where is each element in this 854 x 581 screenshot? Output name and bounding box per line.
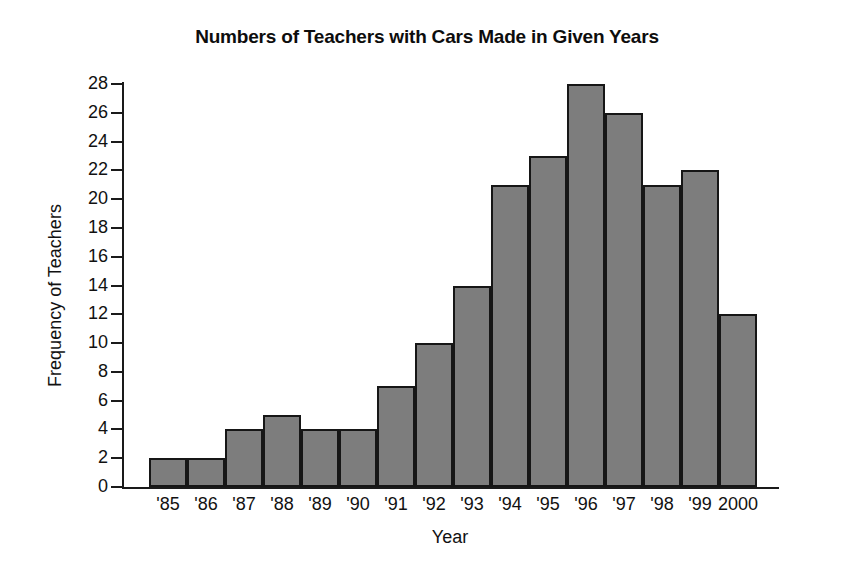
- y-tick-label: 2: [60, 448, 108, 466]
- y-tick-label: 10: [60, 333, 108, 351]
- y-tick-mark: [111, 198, 122, 200]
- y-tick-mark: [111, 112, 122, 114]
- histogram-bar: [491, 185, 529, 487]
- histogram-bar: [377, 386, 415, 487]
- y-tick-mark: [111, 371, 122, 373]
- y-tick-mark: [111, 342, 122, 344]
- plot-area: 0246810121416182022242628 '85'86'87'88'8…: [122, 82, 779, 489]
- histogram-bar: [415, 343, 453, 487]
- histogram-bar: [453, 286, 491, 488]
- y-tick-label: 14: [60, 276, 108, 294]
- x-tick-label: 2000: [713, 494, 763, 514]
- y-tick-label: 0: [60, 477, 108, 495]
- y-tick-label: 12: [60, 304, 108, 322]
- histogram-bar: [339, 429, 377, 487]
- y-tick-mark: [111, 256, 122, 258]
- histogram-bar: [263, 415, 301, 487]
- histogram-bar: [605, 113, 643, 487]
- y-axis-line: [122, 82, 124, 489]
- y-tick-mark: [111, 285, 122, 287]
- y-tick-label: 6: [60, 391, 108, 409]
- y-tick-mark: [111, 400, 122, 402]
- y-tick-mark: [111, 428, 122, 430]
- histogram-figure: Numbers of Teachers with Cars Made in Gi…: [0, 0, 854, 581]
- histogram-bar: [149, 458, 187, 487]
- y-tick-label: 16: [60, 247, 108, 265]
- y-tick-label: 22: [60, 160, 108, 178]
- histogram-bar: [643, 185, 681, 487]
- y-tick-label: 24: [60, 132, 108, 150]
- y-tick-label: 8: [60, 362, 108, 380]
- y-tick-mark: [111, 457, 122, 459]
- y-tick-mark: [111, 486, 122, 488]
- histogram-bar: [529, 156, 567, 487]
- y-tick-label: 20: [60, 189, 108, 207]
- histogram-bar: [187, 458, 225, 487]
- histogram-bar: [719, 314, 757, 487]
- y-tick-label: 18: [60, 218, 108, 236]
- histogram-bar: [567, 84, 605, 487]
- y-tick-label: 4: [60, 419, 108, 437]
- histogram-bar: [681, 170, 719, 487]
- y-tick-mark: [111, 169, 122, 171]
- y-tick-mark: [111, 141, 122, 143]
- x-axis-title: Year: [122, 527, 778, 548]
- y-tick-mark: [111, 227, 122, 229]
- chart-title: Numbers of Teachers with Cars Made in Gi…: [0, 26, 854, 48]
- histogram-bar: [225, 429, 263, 487]
- y-tick-label: 26: [60, 103, 108, 121]
- x-axis-line: [122, 487, 779, 489]
- y-tick-mark: [111, 83, 122, 85]
- histogram-bar: [301, 429, 339, 487]
- y-tick-mark: [111, 313, 122, 315]
- y-tick-label: 28: [60, 74, 108, 92]
